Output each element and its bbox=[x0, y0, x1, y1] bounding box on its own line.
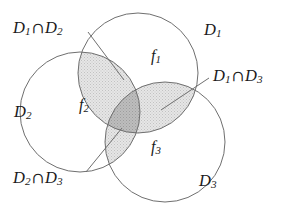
label-region-f1-sub: 1 bbox=[155, 53, 160, 65]
label-intersection-d1-d2-left-sub: 1 bbox=[25, 25, 31, 37]
label-intersection-d1-d2-right-sub: 2 bbox=[57, 25, 63, 37]
label-intersection-d2-d3-right-sub: 3 bbox=[57, 175, 63, 187]
label-region-f3: f3 bbox=[151, 139, 161, 156]
venn-diagram-figure: D1∩D2 D1 D1∩D3 D2 D2∩D3 D3 f1 f2 f3 bbox=[0, 0, 294, 209]
label-set-d1-base: D bbox=[204, 20, 216, 39]
label-intersection-d1-d3-right-sub: 3 bbox=[257, 73, 263, 85]
label-intersection-d1-d2: D1∩D2 bbox=[13, 20, 63, 38]
label-set-d3: D3 bbox=[199, 173, 217, 191]
intersection-operator-icon: ∩ bbox=[31, 169, 46, 187]
intersection-operator-icon: ∩ bbox=[31, 19, 46, 37]
label-region-f3-sub: 3 bbox=[155, 144, 160, 156]
label-intersection-d1-d3: D1∩D3 bbox=[213, 68, 263, 86]
label-intersection-d1-d3-left-sub: 1 bbox=[225, 73, 231, 85]
label-set-d3-sub: 3 bbox=[211, 178, 217, 190]
label-intersection-d1-d3-right: D bbox=[245, 66, 257, 85]
label-intersection-d1-d2-left: D bbox=[13, 18, 25, 37]
label-set-d2: D2 bbox=[14, 104, 32, 122]
label-region-f1: f1 bbox=[151, 48, 161, 65]
label-set-d2-base: D bbox=[14, 102, 26, 121]
label-set-d1: D1 bbox=[204, 22, 222, 40]
label-region-f2-sub: 2 bbox=[83, 102, 88, 114]
label-region-f2: f2 bbox=[79, 97, 89, 114]
label-intersection-d2-d3: D2∩D3 bbox=[13, 170, 63, 188]
label-set-d1-sub: 1 bbox=[216, 27, 222, 39]
label-intersection-d2-d3-right: D bbox=[45, 168, 57, 187]
label-set-d3-base: D bbox=[199, 171, 211, 190]
intersection-operator-icon: ∩ bbox=[231, 67, 246, 85]
label-intersection-d2-d3-left: D bbox=[13, 168, 25, 187]
label-set-d2-sub: 2 bbox=[26, 109, 32, 121]
label-intersection-d2-d3-left-sub: 2 bbox=[25, 175, 31, 187]
label-intersection-d1-d3-left: D bbox=[213, 66, 225, 85]
label-intersection-d1-d2-right: D bbox=[45, 18, 57, 37]
